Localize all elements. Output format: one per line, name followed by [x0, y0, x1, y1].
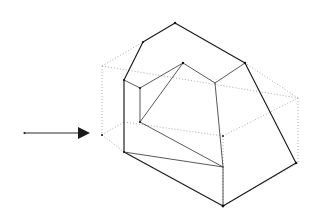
vertex-inner-left	[139, 87, 141, 89]
vertex-front-left-bottom	[123, 151, 125, 153]
vertex-front-left-top	[123, 79, 125, 81]
vertex-bottom-front	[222, 205, 225, 208]
vertex-inner-top	[182, 62, 184, 64]
vertex-box-bottom-left	[101, 134, 103, 136]
vertex-hidden-floor-center	[222, 135, 224, 137]
vertex-roof-left	[142, 41, 144, 43]
vertex-inner-left-low	[139, 121, 141, 123]
vertex-apex	[174, 22, 176, 24]
vertex-bottom-right	[295, 162, 297, 164]
vertex-roof-right	[244, 62, 246, 64]
isometric-figure-canvas	[0, 0, 319, 223]
